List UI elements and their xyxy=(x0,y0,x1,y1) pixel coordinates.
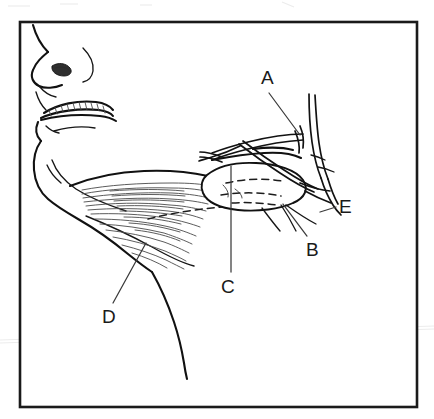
label-b: B xyxy=(306,240,319,259)
label-d: D xyxy=(102,307,116,326)
figure-border xyxy=(20,22,417,407)
submandibular-gland xyxy=(202,163,306,211)
label-a: A xyxy=(261,68,274,87)
illustration-canvas xyxy=(0,0,434,419)
gland-outline xyxy=(202,163,306,211)
anatomical-figure: A B C D E xyxy=(0,0,434,419)
label-c: C xyxy=(221,277,235,296)
label-e: E xyxy=(339,197,352,216)
